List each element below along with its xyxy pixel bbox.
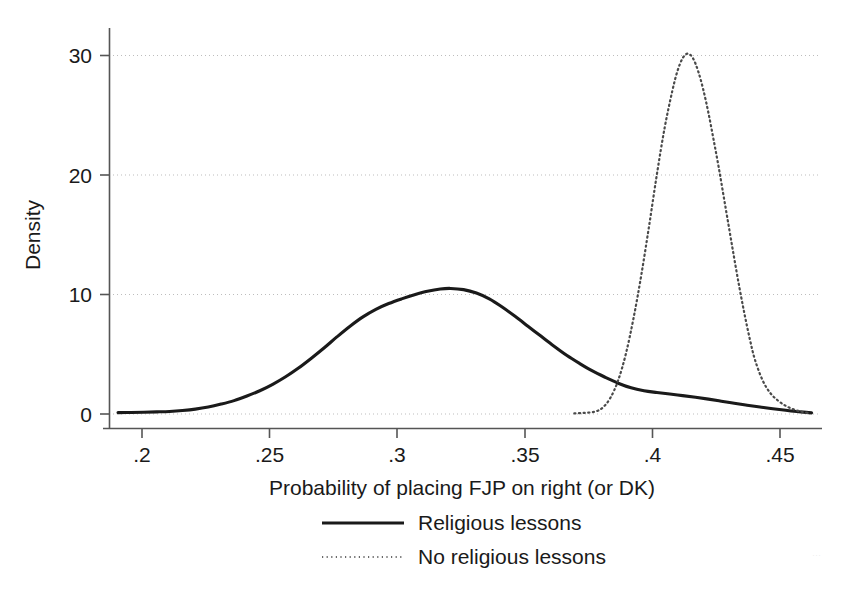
x-axis: .2 .25 .3 .35 .4 .45 Probability of plac… (103, 429, 822, 500)
y-axis-title: Density (21, 199, 44, 270)
y-tick-label-30: 30 (69, 44, 92, 67)
y-tick-label-0: 0 (80, 403, 92, 426)
scan-artifact: … (812, 548, 822, 558)
y-tick-label-20: 20 (69, 164, 92, 187)
x-tick-label-0.35: .35 (510, 443, 539, 466)
x-tick-label-0.3: .3 (388, 443, 406, 466)
x-tick-label-0.2: .2 (133, 443, 151, 466)
x-axis-title: Probability of placing FJP on right (or … (269, 476, 655, 499)
x-tick-label-0.25: .25 (255, 443, 284, 466)
legend-label-no-religious-lessons: No religious lessons (418, 545, 606, 568)
data-series (118, 54, 812, 414)
density-plot-figure: 30 20 10 0 Density .2 .25 .3 .35 .4 .45 … (0, 0, 849, 596)
y-axis: 30 20 10 0 Density (21, 28, 110, 428)
legend-label-religious-lessons: Religious lessons (418, 511, 581, 534)
x-tick-label-0.4: .4 (644, 443, 662, 466)
y-tick-label-10: 10 (69, 283, 92, 306)
series-no-religious-lessons (574, 54, 809, 414)
legend: Religious lessons No religious lessons (322, 511, 606, 568)
chart-canvas: 30 20 10 0 Density .2 .25 .3 .35 .4 .45 … (0, 0, 849, 596)
gridlines (109, 56, 818, 415)
x-tick-label-0.45: .45 (765, 443, 794, 466)
series-religious-lessons (118, 288, 812, 412)
